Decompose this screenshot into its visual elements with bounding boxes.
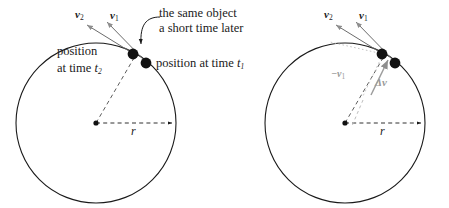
right-position-dot-t1 <box>390 58 401 69</box>
left-label-v1: v1 <box>110 9 119 24</box>
right-radius-to-position <box>345 58 383 123</box>
right-center-dot <box>342 120 347 125</box>
left-center-dot <box>93 120 98 125</box>
right-construction-dashed <box>352 100 363 126</box>
caption-line-2: a short time later <box>159 21 243 35</box>
left-position-t2-line1: position <box>57 44 97 58</box>
circular-motion-figure: the same object a short time later v2 v1… <box>0 0 449 208</box>
right-label-v2: v2 <box>324 8 333 23</box>
right-vector-v1 <box>356 22 395 62</box>
right-label-minus-v1: −v1 <box>331 68 345 82</box>
left-position-dot-t2 <box>128 49 139 60</box>
left-vector-v1 <box>107 22 146 62</box>
left-annotation-arrow <box>141 17 160 44</box>
right-vector-v2 <box>336 25 383 54</box>
left-position-t1: position at time t1 <box>156 56 244 72</box>
right-label-v1: v1 <box>359 9 368 24</box>
right-label-delta-v: Δv <box>375 76 387 89</box>
left-radius-label: r <box>131 125 136 139</box>
left-position-t2-line2: at time t2 <box>57 61 102 77</box>
right-radius-label: r <box>380 125 385 139</box>
left-label-v2: v2 <box>75 8 84 23</box>
left-position-dot-t1 <box>141 58 152 69</box>
caption-line-1: the same object <box>159 6 237 20</box>
right-position-dot-t2 <box>377 49 388 60</box>
